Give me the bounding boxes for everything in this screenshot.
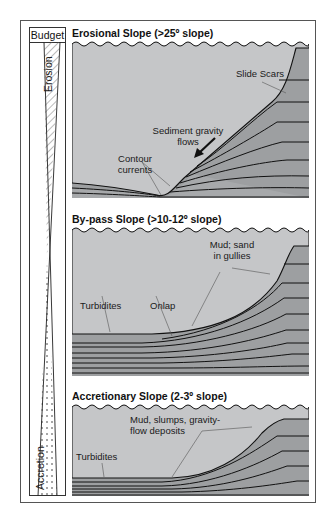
label-contour-1: Contour xyxy=(110,153,160,164)
budget-wedge-graphic xyxy=(30,42,65,496)
panel-title-erosional: Erosional Slope (>25º slope) xyxy=(72,27,213,39)
budget-column: Budget Erosion Accretion xyxy=(29,27,66,496)
label-onlap: Onlap xyxy=(150,300,175,311)
erosion-label: Erosion xyxy=(42,56,54,92)
label-mud-slumps-1: Mud, slumps, gravity- xyxy=(130,414,220,425)
panel-title-bypass: By-pass Slope (>10-12º slope) xyxy=(72,213,221,225)
label-sediment-gravity-1: Sediment gravity xyxy=(142,125,234,136)
label-contour-2: currents xyxy=(110,164,160,175)
erosional-slope-diagram xyxy=(72,40,309,198)
panel-title-accretionary: Accretionary Slope (2-3º slope) xyxy=(72,390,227,402)
label-sediment-gravity-2: flows xyxy=(142,136,234,147)
label-turbidites-bypass: Turbidites xyxy=(80,300,121,311)
accretion-label: Accretion xyxy=(34,446,46,490)
label-mud-sand-2: in gullies xyxy=(200,250,264,261)
label-mud-sand-1: Mud; sand xyxy=(200,239,264,250)
budget-label: Budget xyxy=(30,28,65,43)
label-slide-scars: Slide Scars xyxy=(236,68,284,79)
label-turbidites-accretionary: Turbidites xyxy=(76,451,117,462)
label-mud-slumps-2: flow deposits xyxy=(130,425,185,436)
